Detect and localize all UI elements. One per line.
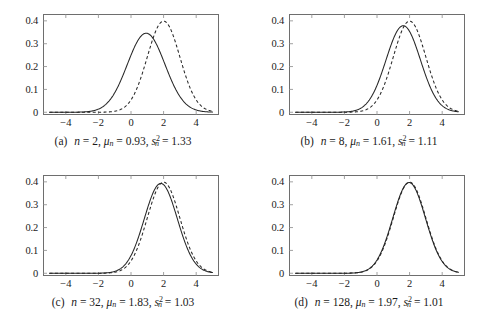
caption-s-value: 1.33 (171, 135, 191, 147)
x-axis-tick-labels-b: −4−2024 (289, 117, 465, 133)
y-tick-label: 0.1 (25, 245, 38, 256)
caption-tag: (b) (300, 135, 313, 147)
panel-caption-d: (d) n = 128, μn = 1.97, s2n = 1.01 (246, 293, 492, 312)
plot-frame-a (44, 15, 219, 115)
density-curve-reference (296, 21, 459, 112)
y-tick-label: 0.4 (271, 176, 284, 187)
x-tick-label: −4 (60, 117, 71, 129)
panel-caption-c: (c) n = 32, μn = 1.83, s2n = 1.03 (0, 293, 246, 312)
y-tick-label: 0 (279, 107, 284, 118)
caption-mu-value: 1.97 (378, 296, 398, 308)
caption-tag: (a) (55, 135, 68, 147)
y-axis-tick-labels-a: 00.10.20.30.4 (0, 8, 38, 121)
y-tick-label: 0.4 (271, 15, 284, 26)
plot-svg-c (43, 175, 219, 276)
plot-area-d (289, 175, 465, 276)
y-tick-label: 0 (33, 107, 38, 118)
plot-svg-a (43, 14, 219, 115)
caption-mu-value: 0.93 (126, 135, 146, 147)
y-tick-label: 0.3 (271, 199, 284, 210)
y-tick-label: 0.4 (25, 15, 38, 26)
chart-panel-d: 00.10.20.30.4 −4−2024 (d) n = 128, μn = … (246, 161, 492, 322)
x-tick-label: 4 (194, 117, 199, 129)
caption-s-value: 1.03 (174, 296, 194, 308)
x-axis-tick-labels-c: −4−2024 (43, 278, 219, 294)
panel-caption-b: (b) n = 8, μn = 1.61, s2n = 1.11 (246, 132, 492, 151)
y-axis-tick-labels-d: 00.10.20.30.4 (246, 169, 284, 282)
x-tick-label: 4 (440, 278, 445, 290)
plot-area-b (289, 14, 465, 115)
x-tick-label: 0 (128, 278, 133, 290)
y-tick-label: 0.1 (271, 84, 284, 95)
y-tick-label: 0.1 (271, 245, 284, 256)
y-tick-label: 0.2 (25, 222, 38, 233)
caption-mu-value: 1.83 (129, 296, 149, 308)
panel-caption-a: (a) n = 2, μn = 0.93, s2n = 1.33 (0, 132, 246, 151)
y-tick-label: 0.3 (271, 38, 284, 49)
x-tick-label: −4 (60, 278, 71, 290)
x-tick-label: 2 (407, 117, 412, 129)
x-axis-tick-labels-a: −4−2024 (43, 117, 219, 133)
y-axis-tick-labels-b: 00.10.20.30.4 (246, 8, 284, 121)
x-axis-tick-labels-d: −4−2024 (289, 278, 465, 294)
plot-svg-b (289, 14, 465, 115)
plot-area-c (43, 175, 219, 276)
y-tick-label: 0.1 (25, 84, 38, 95)
plot-area-a (43, 14, 219, 115)
plot-frame-c (44, 176, 219, 276)
chart-panel-a: 00.10.20.30.4 −4−2024 (a) n = 2, μn = 0.… (0, 0, 246, 161)
x-tick-label: 4 (440, 117, 445, 129)
caption-tag: (c) (52, 296, 65, 308)
density-curve-reference (50, 182, 213, 273)
y-tick-label: 0.4 (25, 176, 38, 187)
density-curve-posterior (296, 183, 459, 274)
x-tick-label: −2 (93, 117, 104, 129)
y-tick-label: 0.2 (25, 61, 38, 72)
x-tick-label: 0 (128, 117, 133, 129)
x-tick-label: −2 (339, 117, 350, 129)
caption-s-value: 1.01 (423, 296, 443, 308)
x-tick-label: −4 (306, 278, 317, 290)
y-tick-label: 0.2 (271, 222, 284, 233)
y-tick-label: 0 (279, 268, 284, 279)
y-axis-tick-labels-c: 00.10.20.30.4 (0, 169, 38, 282)
x-tick-label: 2 (407, 278, 412, 290)
x-tick-label: −2 (339, 278, 350, 290)
figure-panel-grid: 00.10.20.30.4 −4−2024 (a) n = 2, μn = 0.… (0, 0, 493, 322)
caption-n-value: 128 (333, 296, 350, 308)
y-tick-label: 0.3 (25, 38, 38, 49)
plot-frame-b (290, 15, 465, 115)
chart-panel-b: 00.10.20.30.4 −4−2024 (b) n = 8, μn = 1.… (246, 0, 492, 161)
x-tick-label: 0 (374, 117, 379, 129)
x-tick-label: −2 (93, 278, 104, 290)
caption-n-value: 32 (89, 296, 101, 308)
density-curve-posterior (50, 33, 213, 112)
x-tick-label: −4 (306, 117, 317, 129)
x-tick-label: 2 (161, 117, 166, 129)
chart-panel-c: 00.10.20.30.4 −4−2024 (c) n = 32, μn = 1… (0, 161, 246, 322)
y-tick-label: 0.2 (271, 61, 284, 72)
y-tick-label: 0 (33, 268, 38, 279)
density-curve-reference (50, 21, 213, 112)
density-curve-posterior (50, 183, 213, 273)
y-tick-label: 0.3 (25, 199, 38, 210)
caption-mu-value: 1.61 (372, 135, 392, 147)
caption-tag: (d) (295, 296, 308, 308)
density-curve-posterior (296, 26, 459, 113)
plot-svg-d (289, 175, 465, 276)
caption-s-value: 1.11 (418, 135, 438, 147)
x-tick-label: 2 (161, 278, 166, 290)
x-tick-label: 0 (374, 278, 379, 290)
x-tick-label: 4 (194, 278, 199, 290)
